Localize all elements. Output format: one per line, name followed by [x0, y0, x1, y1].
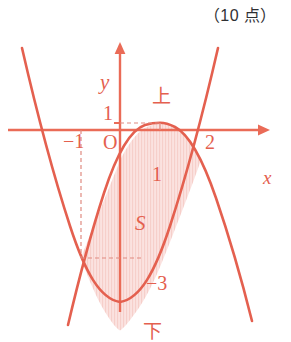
- area-label-S: S: [135, 213, 146, 234]
- x-tick-label-2: 2: [205, 132, 215, 152]
- x-axis-label: x: [263, 168, 271, 187]
- graph-figure: y x 1 −1 O 2 1 −3 S 上 下: [0, 30, 291, 337]
- y-axis-label: y: [100, 72, 109, 93]
- x-tick-label-1: 1: [152, 164, 162, 184]
- points-annotation: （10 点）: [204, 2, 277, 26]
- x-tick-label-minus-1: −1: [63, 131, 84, 151]
- lower-curve-label: 下: [143, 322, 162, 341]
- y-tick-label-minus-3: −3: [146, 273, 167, 293]
- upper-curve-label: 上: [152, 87, 171, 106]
- origin-label: O: [103, 132, 117, 152]
- y-tick-label-1: 1: [103, 103, 113, 123]
